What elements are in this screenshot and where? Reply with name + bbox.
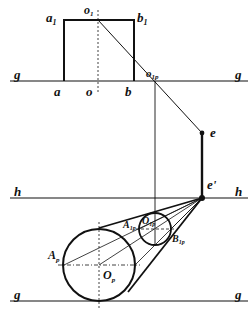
svg-text:g: g: [13, 287, 21, 302]
labels: g g h h g g a1 o1 b1 a o b o1p e e' Ap O…: [13, 3, 242, 302]
svg-text:g: g: [13, 67, 21, 82]
svg-text:a1: a1: [46, 10, 57, 27]
perspective-diagram: g g h h g g a1 o1 b1 a o b o1p e e' Ap O…: [0, 0, 251, 320]
svg-text:h: h: [235, 184, 242, 199]
svg-text:o1p: o1p: [146, 67, 159, 81]
label-e: e: [210, 125, 216, 140]
svg-text:e: e: [210, 125, 216, 140]
svg-text:Ap: Ap: [47, 248, 60, 264]
svg-text:o: o: [86, 84, 93, 99]
svg-text:b1: b1: [137, 10, 148, 27]
svg-text:o1: o1: [84, 3, 94, 18]
label-e-prime: e': [207, 177, 217, 192]
label-o: o: [86, 84, 93, 99]
label-b: b: [125, 84, 132, 99]
svg-text:A1p: A1p: [122, 219, 136, 231]
label-Op: O: [103, 268, 112, 282]
elevation-rectangle: [64, 20, 134, 81]
svg-text:b: b: [125, 84, 132, 99]
label-a: a: [54, 84, 61, 99]
svg-text:g: g: [234, 287, 242, 302]
svg-text:O1p: O1p: [142, 215, 155, 227]
label-g-top-left: g: [13, 67, 21, 82]
label-Ap: A: [47, 248, 56, 262]
svg-text:Op: Op: [103, 268, 116, 284]
label-g-bottom-right: g: [234, 287, 242, 302]
point-e: [200, 131, 205, 136]
label-g-bottom-left: g: [13, 287, 21, 302]
label-O1p: O: [142, 215, 149, 226]
label-h-left: h: [14, 184, 21, 199]
cone-tangent-lower: [128, 198, 202, 292]
svg-text:g: g: [234, 67, 242, 82]
label-h-right: h: [235, 184, 242, 199]
label-g-top-right: g: [234, 67, 242, 82]
svg-text:h: h: [14, 184, 21, 199]
svg-text:e': e': [207, 177, 217, 192]
svg-text:B1p: B1p: [171, 233, 185, 245]
svg-text:a: a: [54, 84, 61, 99]
